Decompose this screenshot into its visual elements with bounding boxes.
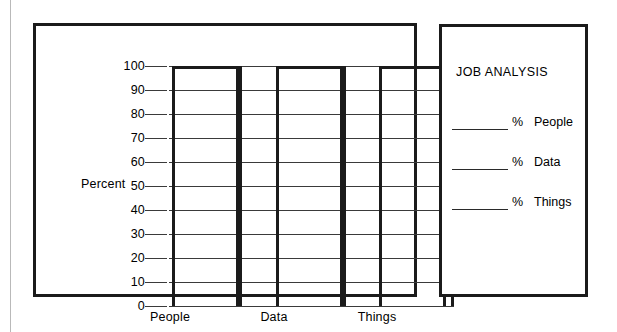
plot-area: 100 90 80 70 60 50 40 — [169, 66, 454, 306]
tick-20 — [145, 258, 167, 259]
job-analysis-row-data: % Data — [452, 153, 584, 171]
job-analysis-panel: JOB ANALYSIS % People % Data % Things — [439, 24, 588, 297]
ytick-label-100-wrap: 100 — [99, 60, 145, 72]
ytick-label-60: 60 — [105, 156, 145, 168]
tick-60 — [145, 162, 167, 163]
x-axis-label-data: Data — [240, 310, 308, 324]
ytick-label-30: 30 — [105, 228, 145, 240]
percent-blank-people[interactable] — [452, 129, 508, 130]
ytick-label-100: 100 — [105, 60, 145, 72]
column-separator-2 — [343, 66, 346, 306]
percent-blank-data[interactable] — [452, 169, 508, 170]
x-axis-label-things: Things — [343, 310, 411, 324]
bar-people[interactable] — [172, 66, 239, 306]
chart-panel: Percent 100 90 80 70 60 50 — [33, 23, 417, 297]
tick-80 — [145, 114, 167, 115]
page-margin-rule — [10, 0, 11, 332]
tick-30 — [145, 234, 167, 235]
ytick-label-90-wrap: 90 — [99, 84, 145, 96]
percent-label-data: Data — [534, 155, 560, 169]
ytick-label-30-wrap: 30 — [99, 228, 145, 240]
job-analysis-title: JOB ANALYSIS — [456, 65, 548, 79]
percent-symbol-things: % — [512, 195, 523, 209]
percent-symbol-data: % — [512, 155, 523, 169]
ytick-label-70: 70 — [105, 132, 145, 144]
percent-label-things: Things — [534, 195, 572, 209]
x-axis-label-people: People — [136, 310, 204, 324]
tick-40 — [145, 210, 167, 211]
ytick-label-20: 20 — [105, 252, 145, 264]
tick-90 — [145, 90, 167, 91]
percent-blank-things[interactable] — [452, 209, 508, 210]
ytick-label-40: 40 — [105, 204, 145, 216]
percent-label-people: People — [534, 115, 573, 129]
ytick-label-60-wrap: 60 — [99, 156, 145, 168]
bar-data[interactable] — [276, 66, 343, 306]
ytick-label-90: 90 — [105, 84, 145, 96]
tick-0 — [145, 306, 167, 307]
ytick-label-80: 80 — [105, 108, 145, 120]
job-analysis-row-things: % Things — [452, 193, 584, 211]
ytick-label-10: 10 — [105, 276, 145, 288]
ytick-label-70-wrap: 70 — [99, 132, 145, 144]
tick-10 — [145, 282, 167, 283]
tick-70 — [145, 138, 167, 139]
ytick-label-50-wrap: 50 — [99, 180, 145, 192]
job-analysis-row-people: % People — [452, 113, 584, 131]
ytick-label-40-wrap: 40 — [99, 204, 145, 216]
tick-100 — [145, 66, 167, 67]
ytick-label-50: 50 — [105, 180, 145, 192]
ytick-label-10-wrap: 10 — [99, 276, 145, 288]
percent-symbol-people: % — [512, 115, 523, 129]
bar-things[interactable] — [379, 66, 446, 306]
tick-50 — [145, 186, 167, 187]
column-separator-1 — [239, 66, 242, 306]
ytick-label-20-wrap: 20 — [99, 252, 145, 264]
gridline-0 — [169, 306, 454, 307]
ytick-label-80-wrap: 80 — [99, 108, 145, 120]
